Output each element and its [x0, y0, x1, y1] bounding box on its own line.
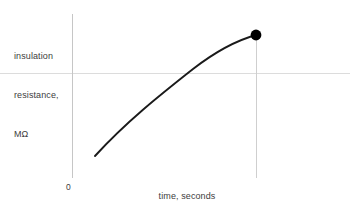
y-axis-label-line-1: insulation	[14, 50, 59, 63]
chart-figure: insulation resistance, MΩ 0 time, second…	[0, 0, 350, 210]
y-axis-label-line-3: MΩ	[14, 128, 59, 141]
end-point-marker	[251, 30, 262, 41]
data-curve	[95, 35, 256, 156]
y-axis-label: insulation resistance, MΩ	[14, 24, 59, 167]
x-axis-label: time, seconds	[0, 190, 350, 203]
y-axis-label-line-2: resistance,	[14, 89, 59, 102]
